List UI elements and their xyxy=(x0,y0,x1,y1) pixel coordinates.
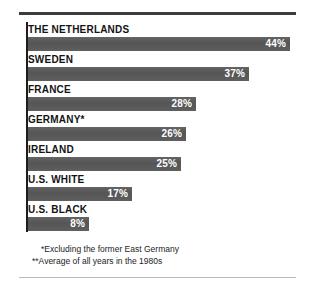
chart-row: GERMANY* 26% xyxy=(19,112,296,142)
bar-value-label: 44% xyxy=(265,37,286,51)
chart-row: IRELAND 25% xyxy=(19,142,296,172)
bar-category-label: THE NETHERLANDS xyxy=(28,22,129,37)
bar-container: 26% xyxy=(28,127,186,141)
bar-category-label: U.S. WHITE xyxy=(28,172,84,187)
bar: 28% xyxy=(28,97,196,111)
bar-container: 17% xyxy=(28,187,132,201)
bar-container: 44% xyxy=(28,37,290,51)
bar-container: 37% xyxy=(28,67,249,81)
bar-value-label: 37% xyxy=(224,67,245,81)
bar-value-label: 28% xyxy=(171,97,192,111)
bar: 8% xyxy=(28,217,89,231)
bar-category-label: SWEDEN xyxy=(28,52,73,67)
bottom-divider-rule xyxy=(19,277,296,278)
chart-row: U.S. BLACK 8% xyxy=(19,202,296,232)
bar-container: 8% xyxy=(28,217,89,231)
bar: 44% xyxy=(28,37,290,51)
bar-category-label: GERMANY* xyxy=(28,112,85,127)
bar-category-label: IRELAND xyxy=(28,142,74,157)
bar: 37% xyxy=(28,67,249,81)
bar-value-label: 25% xyxy=(156,157,177,171)
footnote-double-asterisk: **Average of all years in the 1980s xyxy=(32,255,282,267)
bar-container: 25% xyxy=(28,157,181,171)
bar-container: 28% xyxy=(28,97,196,111)
chart-row: THE NETHERLANDS 44% xyxy=(19,22,296,52)
bar-category-label: FRANCE xyxy=(28,82,71,97)
bar: 25% xyxy=(28,157,181,171)
top-divider-rule xyxy=(19,12,296,15)
bar: 26% xyxy=(28,127,186,141)
footnotes: *Excluding the former East Germany **Ave… xyxy=(32,243,282,267)
bar-value-label: 8% xyxy=(70,217,85,231)
chart-row: SWEDEN 37% xyxy=(19,52,296,82)
bar: 17% xyxy=(28,187,132,201)
bar-value-label: 17% xyxy=(107,187,128,201)
bar-chart: THE NETHERLANDS 44% SWEDEN 37% FRANCE 28… xyxy=(19,22,296,232)
chart-row: U.S. WHITE 17% xyxy=(19,172,296,202)
chart-sheet: THE NETHERLANDS 44% SWEDEN 37% FRANCE 28… xyxy=(0,0,313,290)
bar-value-label: 26% xyxy=(161,127,182,141)
bar-category-label: U.S. BLACK xyxy=(28,202,87,217)
chart-row: FRANCE 28% xyxy=(19,82,296,112)
footnote-single-asterisk: *Excluding the former East Germany xyxy=(32,243,282,255)
